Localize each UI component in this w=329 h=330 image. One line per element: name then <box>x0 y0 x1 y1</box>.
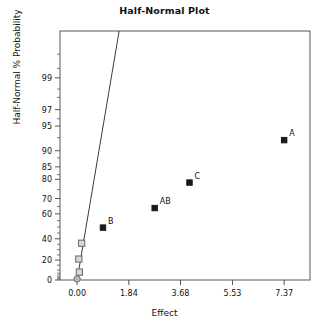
x-tick-label: 5.53 <box>224 289 242 298</box>
y-tick-label: 20 <box>42 256 52 265</box>
y-axis-ticks: 020406070808590959799 <box>42 54 60 285</box>
half-normal-plot: Half-Normal Plot Half-Normal % Probabili… <box>0 0 329 330</box>
y-tick-label: 40 <box>42 235 52 244</box>
y-tick-label: 60 <box>42 210 52 219</box>
plot-frame <box>60 31 310 280</box>
x-tick-label: 0.00 <box>68 289 86 298</box>
data-point-label: AB <box>160 197 171 206</box>
y-tick-label: 95 <box>42 122 52 131</box>
data-point[interactable] <box>74 276 80 282</box>
data-point-label: C <box>194 172 200 181</box>
y-tick-label: 0 <box>47 276 52 285</box>
x-tick-label: 7.37 <box>275 289 293 298</box>
data-point-label: B <box>108 217 114 226</box>
x-tick-label: 3.68 <box>172 289 190 298</box>
plot-canvas: 020406070808590959799 0.001.843.685.537.… <box>0 0 329 330</box>
data-point[interactable] <box>281 137 286 142</box>
data-point-label: A <box>289 129 295 138</box>
y-tick-label: 97 <box>42 106 52 115</box>
data-point[interactable] <box>79 240 85 246</box>
data-point[interactable] <box>100 225 105 230</box>
data-points-group: BABCA <box>74 129 295 282</box>
y-tick-label: 80 <box>42 175 52 184</box>
y-tick-label: 85 <box>42 163 52 172</box>
x-tick-label: 1.84 <box>120 289 138 298</box>
data-point[interactable] <box>76 256 82 262</box>
y-tick-label: 99 <box>42 74 52 83</box>
y-tick-label: 90 <box>42 147 52 156</box>
data-point[interactable] <box>76 269 82 275</box>
y-tick-label: 70 <box>42 195 52 204</box>
x-axis-ticks: 0.001.843.685.537.37 <box>68 280 293 298</box>
data-point[interactable] <box>152 205 157 210</box>
data-point[interactable] <box>187 180 192 185</box>
